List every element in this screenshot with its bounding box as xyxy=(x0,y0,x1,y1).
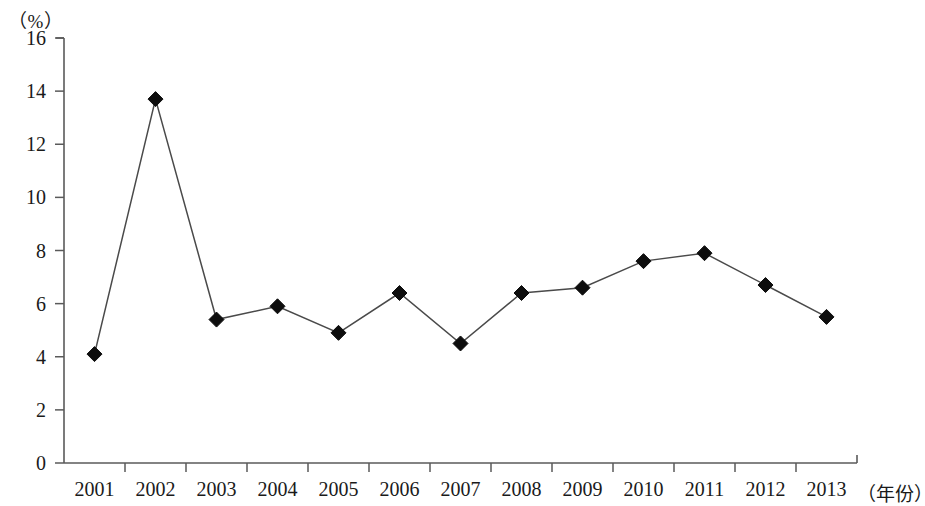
y-axis-tick-label: 14 xyxy=(12,80,46,103)
x-axis-tick-label: 2010 xyxy=(624,478,664,501)
y-axis-tick-marks xyxy=(55,38,64,463)
y-axis-tick-label: 16 xyxy=(12,27,46,50)
data-series-layer xyxy=(87,92,834,362)
x-axis-tick-label: 2012 xyxy=(746,478,786,501)
x-axis-tick-label: 2013 xyxy=(807,478,847,501)
x-axis-tick-label: 2011 xyxy=(685,478,724,501)
y-axis-tick-label: 8 xyxy=(12,239,46,262)
data-point-marker xyxy=(575,280,590,295)
y-axis-tick-label: 10 xyxy=(12,186,46,209)
x-axis-tick-label: 2003 xyxy=(197,478,237,501)
x-axis-tick-label: 2002 xyxy=(136,478,176,501)
x-axis-tick-label: 2007 xyxy=(441,478,481,501)
data-point-marker xyxy=(758,278,773,293)
data-point-marker xyxy=(148,92,163,107)
series-line-path xyxy=(95,99,827,354)
axes xyxy=(56,38,857,463)
data-point-marker xyxy=(331,325,346,340)
x-axis-unit-label: （年份） xyxy=(857,479,925,506)
data-point-marker xyxy=(819,309,834,324)
data-point-marker xyxy=(209,312,224,327)
y-axis-tick-label: 0 xyxy=(12,452,46,475)
data-point-marker xyxy=(636,254,651,269)
x-axis-tick-label: 2006 xyxy=(380,478,420,501)
y-axis-tick-label: 6 xyxy=(12,292,46,315)
data-point-marker xyxy=(270,299,285,314)
x-axis-tick-marks xyxy=(125,463,796,472)
data-point-marker xyxy=(87,347,102,362)
x-axis-tick-label: 2008 xyxy=(502,478,542,501)
y-axis-tick-label: 12 xyxy=(12,133,46,156)
y-axis-tick-label: 2 xyxy=(12,398,46,421)
data-point-marker xyxy=(697,246,712,261)
x-axis-tick-label: 2005 xyxy=(319,478,359,501)
x-axis-tick-label: 2004 xyxy=(258,478,298,501)
x-axis-tick-label: 2001 xyxy=(75,478,115,501)
data-point-markers xyxy=(87,92,834,362)
y-axis-tick-label: 4 xyxy=(12,345,46,368)
x-axis-tick-label: 2009 xyxy=(563,478,603,501)
